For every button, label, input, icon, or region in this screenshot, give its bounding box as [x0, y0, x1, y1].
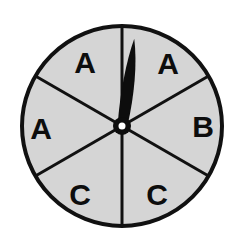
sector-label-bottom-left: C: [69, 178, 91, 211]
sector-label-top-left: A: [74, 46, 96, 79]
spinner-wheel-svg: A B C C A A: [0, 0, 232, 248]
hub-inner-dot: [119, 123, 126, 130]
sector-label-top-right: A: [157, 47, 179, 80]
spinner-figure: A B C C A A: [0, 0, 232, 248]
sector-label-bottom-right: C: [146, 178, 168, 211]
sector-label-right: B: [192, 110, 214, 143]
sector-label-left: A: [30, 112, 52, 145]
